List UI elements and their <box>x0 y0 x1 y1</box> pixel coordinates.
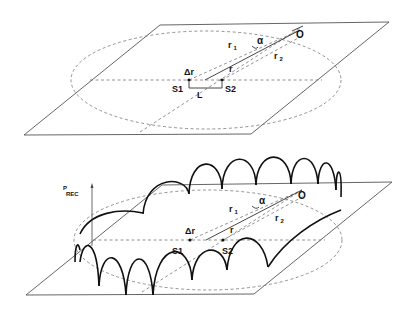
power-axis-arrow-icon <box>91 183 94 188</box>
top-label-r2: r2 <box>274 51 284 62</box>
diagram-canvas: O r1 α r2 Δr r S1 S2 L PREC <box>0 0 412 313</box>
top-label-s1: S1 <box>172 84 183 94</box>
top-label-r: r <box>229 64 233 74</box>
bottom-label-delta-r: Δr <box>185 226 195 236</box>
top-alpha-arc <box>252 46 258 48</box>
bottom-observer-circle <box>74 190 342 290</box>
bottom-label-r: r <box>230 225 234 235</box>
top-plane <box>24 22 389 135</box>
bottom-alpha-arc <box>252 206 259 208</box>
right-swoop <box>268 210 341 267</box>
back-lobes <box>143 157 341 214</box>
bottom-label-alpha: α <box>259 195 266 206</box>
left-swoop <box>80 211 143 234</box>
bottom-ray-r <box>206 190 302 240</box>
top-label-alpha: α <box>257 35 264 46</box>
bottom-ray-r1 <box>190 190 302 240</box>
top-source-s2-marker <box>220 78 223 81</box>
top-label-r1: r1 <box>228 40 238 51</box>
top-ray-r1 <box>189 30 300 80</box>
top-ray-r <box>205 30 300 80</box>
bottom-source-s1-marker <box>188 238 191 241</box>
bottom-label-observer: O <box>298 190 306 201</box>
top-label-delta-r: Δr <box>184 67 194 77</box>
bottom-label-r1: r1 <box>229 204 239 215</box>
bottom-panel: PREC O r1 α r2 Δr r S1 S2 <box>26 157 392 295</box>
bottom-label-s2: S2 <box>222 246 233 256</box>
bottom-label-r2: r2 <box>275 213 285 224</box>
top-label-separation: L <box>197 90 203 100</box>
top-separation-bracket <box>189 82 222 88</box>
bottom-source-s2-marker <box>221 238 224 241</box>
bottom-label-s1: S1 <box>172 246 183 256</box>
power-axis-label: PREC <box>63 185 79 197</box>
top-label-s2: S2 <box>225 84 236 94</box>
top-label-observer: O <box>296 29 304 40</box>
top-source-s1-marker <box>187 78 190 81</box>
interference-diagram: O r1 α r2 Δr r S1 S2 L PREC <box>0 0 412 313</box>
top-panel: O r1 α r2 Δr r S1 S2 L <box>24 22 389 135</box>
